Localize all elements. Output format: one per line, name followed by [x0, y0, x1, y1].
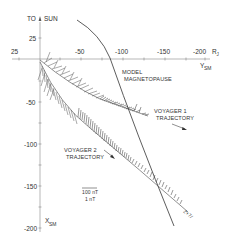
scale-numerator: 100 nT: [82, 189, 98, 195]
unit-subscript: J: [217, 52, 219, 57]
y-tick-label: -200: [24, 225, 37, 232]
svg-text:MAGNETOPAUSE: MAGNETOPAUSE: [124, 76, 172, 82]
axes: [12, 16, 210, 232]
svg-text:VOYAGER 1: VOYAGER 1: [154, 108, 187, 114]
x-tick-label: -50: [75, 48, 85, 55]
x-axis-title-subscript: SM: [204, 65, 212, 71]
svg-text:MODEL: MODEL: [122, 69, 142, 75]
sun-label: SUN: [44, 15, 58, 22]
voyager1-direction-arrow-icon: [182, 127, 187, 130]
sun-direction-label: TO: [27, 15, 36, 22]
svg-text:TRAJECTORY: TRAJECTORY: [156, 115, 194, 121]
svg-text:TRAJECTORY: TRAJECTORY: [66, 154, 104, 160]
sun-arrow-icon: [39, 16, 42, 21]
y-tick-label: -100: [24, 141, 37, 148]
y-tick-label: -150: [24, 183, 37, 190]
voyager2-trajectory: [38, 62, 188, 212]
voyager2-label: VOYAGER 2 TRAJECTORY: [64, 147, 115, 160]
x-tick-label: 25: [11, 48, 19, 55]
end-marker-label: 2+7/: [182, 208, 194, 220]
x-tick-label: -200: [193, 48, 206, 55]
magnetopause-label: MODEL MAGNETOPAUSE: [122, 69, 172, 82]
scale-denominator: 1 nT: [85, 196, 95, 202]
magnetic-field-trajectory-diagram: 25 -50 -100 -150 -200 R J Y SM TO SUN 25…: [0, 0, 227, 244]
x-tick-label: -150: [157, 48, 170, 55]
y-tick-label: -50: [26, 99, 36, 106]
x-tick-label: -100: [115, 48, 128, 55]
y-axis-title-subscript: SM: [49, 221, 57, 227]
voyager1-label: VOYAGER 1 TRAJECTORY: [154, 108, 194, 130]
svg-text:VOYAGER 2: VOYAGER 2: [64, 147, 97, 153]
voyager1-trajectory: [40, 52, 149, 116]
field-scale-key: 100 nT 1 nT: [82, 188, 98, 202]
y-tick-label: 25: [29, 35, 37, 42]
